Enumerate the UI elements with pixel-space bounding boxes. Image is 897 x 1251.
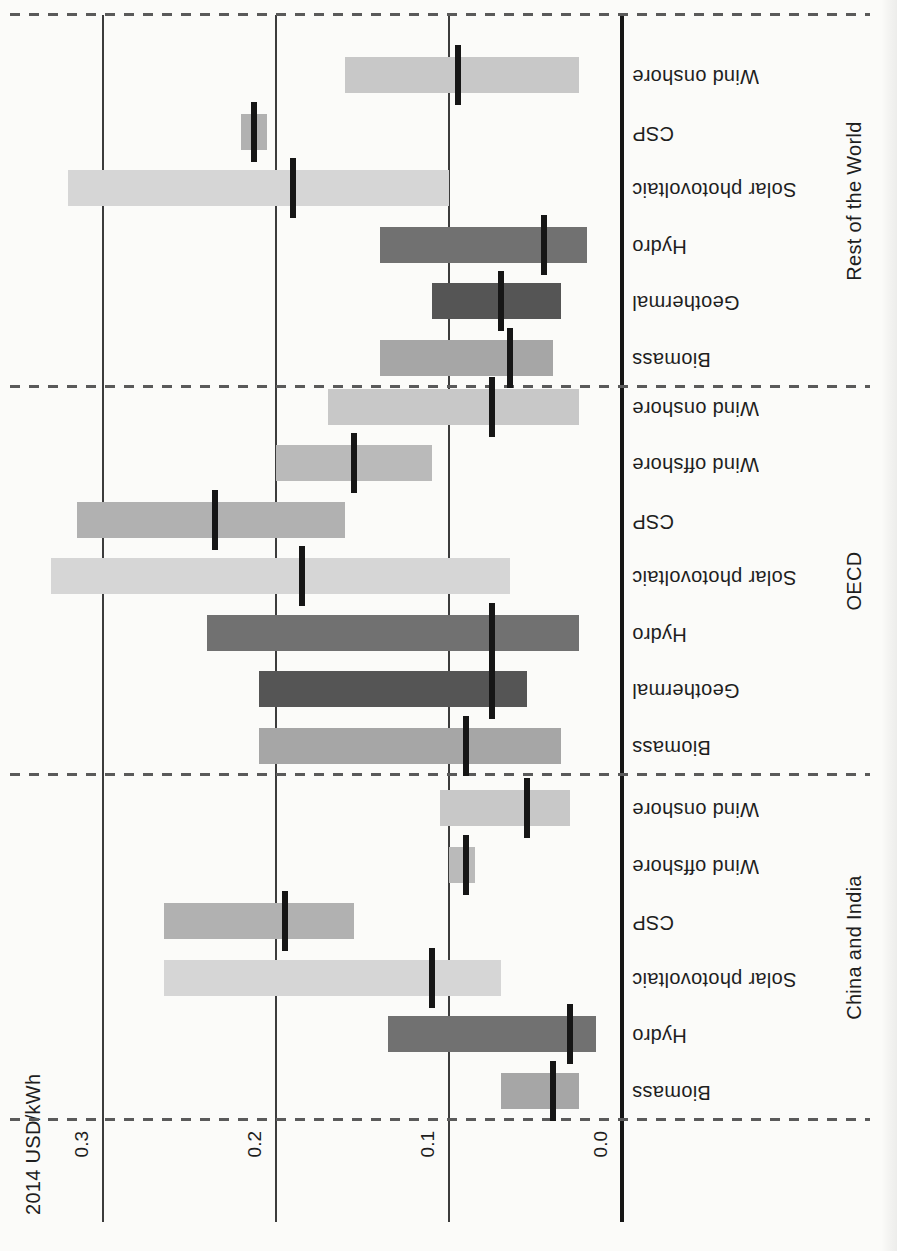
average-marker-oecd-geothermal	[489, 660, 495, 720]
region-separator-0	[10, 1119, 870, 1122]
category-label-rest-of-the-world-hydro: Hydro	[632, 235, 687, 258]
average-marker-rest-of-the-world-geothermal	[498, 272, 504, 332]
axis-tick-label-0.2: 0.2	[244, 1131, 266, 1191]
average-marker-rest-of-the-world-csp	[251, 102, 257, 162]
bar-china-and-india-hydro	[388, 1017, 596, 1053]
category-label-china-and-india-wind-offshore: Wind offshore	[632, 855, 759, 878]
bar-oecd-wind-onshore	[328, 389, 579, 425]
average-marker-oecd-wind-onshore	[489, 377, 495, 437]
region-separator-1	[10, 774, 870, 777]
average-marker-rest-of-the-world-solar-photovoltaic	[290, 159, 296, 219]
bar-china-and-india-biomass	[501, 1073, 579, 1109]
category-label-rest-of-the-world-solar-photovoltaic: Solar photovoltaic	[632, 179, 796, 202]
average-marker-oecd-solar-photovoltaic	[299, 547, 305, 607]
axis-tick-label-0.3: 0.3	[71, 1131, 93, 1191]
axis-tick-label-0.1: 0.1	[417, 1131, 439, 1191]
average-marker-rest-of-the-world-biomass	[507, 328, 513, 388]
category-label-rest-of-the-world-csp: CSP	[632, 122, 674, 145]
category-label-oecd-biomass: Biomass	[632, 736, 711, 759]
average-marker-china-and-india-hydro	[567, 1005, 573, 1065]
average-marker-china-and-india-csp	[282, 892, 288, 952]
category-label-oecd-solar-photovoltaic: Solar photovoltaic	[632, 567, 796, 590]
category-label-oecd-geothermal: Geothermal	[632, 680, 740, 703]
average-marker-oecd-csp	[212, 490, 218, 550]
average-marker-china-and-india-wind-onshore	[524, 779, 530, 839]
bar-rest-of-the-world-geothermal	[432, 284, 562, 320]
average-marker-rest-of-the-world-hydro	[541, 215, 547, 275]
bar-rest-of-the-world-solar-photovoltaic	[68, 171, 449, 207]
bar-china-and-india-solar-photovoltaic	[164, 960, 501, 996]
category-label-china-and-india-wind-onshore: Wind onshore	[632, 799, 759, 822]
bar-china-and-india-wind-offshore	[449, 847, 475, 883]
scanned-book-page: 2014 USD/kWh 0.00.10.20.3China and India…	[0, 0, 897, 1251]
bar-rest-of-the-world-wind-onshore	[345, 58, 579, 94]
bar-oecd-hydro	[207, 615, 579, 651]
category-label-china-and-india-biomass: Biomass	[632, 1081, 711, 1104]
average-marker-rest-of-the-world-wind-onshore	[455, 46, 461, 106]
category-label-oecd-hydro: Hydro	[632, 623, 687, 646]
bar-rest-of-the-world-hydro	[380, 227, 588, 263]
category-label-rest-of-the-world-biomass: Biomass	[632, 348, 711, 371]
average-marker-china-and-india-wind-offshore	[463, 835, 469, 895]
bar-rest-of-the-world-biomass	[380, 340, 553, 376]
average-marker-oecd-wind-offshore	[351, 434, 357, 494]
region-label-oecd: OECD	[843, 471, 866, 691]
bar-china-and-india-wind-onshore	[440, 791, 570, 827]
average-marker-oecd-hydro	[489, 603, 495, 663]
bar-oecd-geothermal	[259, 672, 527, 708]
category-label-oecd-wind-offshore: Wind offshore	[632, 454, 759, 477]
category-label-china-and-india-hydro: Hydro	[632, 1025, 687, 1048]
category-label-oecd-csp: CSP	[632, 510, 674, 533]
bar-oecd-solar-photovoltaic	[51, 559, 509, 595]
category-label-oecd-wind-onshore: Wind onshore	[632, 397, 759, 420]
region-label-rest-of-the-world: Rest of the World	[843, 91, 866, 311]
rotated-chart-stage: 2014 USD/kWh 0.00.10.20.3China and India…	[0, 0, 897, 1251]
category-label-china-and-india-csp: CSP	[632, 912, 674, 935]
value-axis-title: 2014 USD/kWh	[22, 1074, 45, 1215]
bar-oecd-biomass	[259, 728, 562, 764]
bar-oecd-csp	[77, 502, 345, 538]
value-axis-baseline	[620, 15, 624, 1222]
bar-china-and-india-csp	[164, 904, 354, 940]
average-marker-oecd-biomass	[463, 716, 469, 776]
region-separator-3	[10, 14, 870, 17]
region-label-china-and-india: China and India	[843, 838, 866, 1058]
average-marker-china-and-india-biomass	[550, 1061, 556, 1121]
category-label-rest-of-the-world-wind-onshore: Wind onshore	[632, 66, 759, 89]
axis-tick-label-0.0: 0.0	[590, 1131, 612, 1191]
average-marker-china-and-india-solar-photovoltaic	[429, 948, 435, 1008]
category-label-china-and-india-solar-photovoltaic: Solar photovoltaic	[632, 968, 796, 991]
category-label-rest-of-the-world-geothermal: Geothermal	[632, 292, 740, 315]
